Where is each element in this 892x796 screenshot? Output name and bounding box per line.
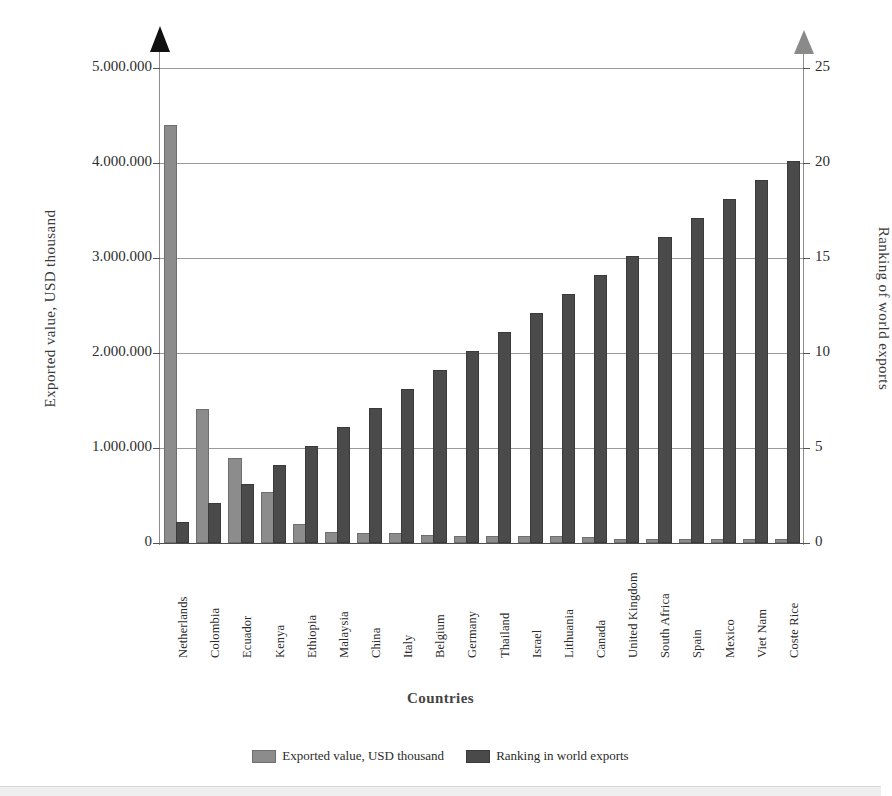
y-axis-right-tick-label: 10 [815, 343, 855, 360]
y-axis-left-arrow-icon [150, 26, 170, 52]
y-axis-left-tick-mark [153, 543, 160, 544]
bar-ranking [498, 332, 511, 543]
x-axis-tick-label: Thailand [498, 613, 513, 658]
bar-ranking [208, 503, 221, 543]
y-axis-right-tick-label: 20 [815, 153, 855, 170]
bar-group [514, 68, 546, 543]
bar-group [289, 68, 321, 543]
bar-group [385, 68, 417, 543]
y-axis-left-tick-label: 1.000.000 [62, 438, 152, 455]
bar-group [256, 68, 288, 543]
bar-group [353, 68, 385, 543]
page-edge-artifact [0, 786, 881, 796]
bar-ranking [723, 199, 736, 543]
chart-legend: Exported value, USD thousandRanking in w… [0, 748, 881, 764]
bar-group [321, 68, 353, 543]
bar-ranking [755, 180, 768, 543]
x-axis-tick-label: United Kingdom [626, 572, 641, 658]
bar-ranking [337, 427, 350, 543]
x-axis-tick-label: China [369, 628, 384, 658]
legend-swatch [466, 750, 490, 763]
bar-ranking [530, 313, 543, 543]
x-axis-tick-label: Kenya [273, 625, 288, 658]
bar-group [546, 68, 578, 543]
y-axis-left-tick-mark [153, 258, 160, 259]
y-axis-right-tick-mark [803, 258, 810, 259]
y-axis-left-tick-mark [153, 163, 160, 164]
x-axis-tick-label: Spain [690, 629, 705, 658]
y-axis-left-tick-label: 4.000.000 [62, 153, 152, 170]
x-axis-tick-label: Belgium [433, 614, 448, 658]
x-axis-tick-label: Colombia [208, 608, 223, 658]
bar-ranking [466, 351, 479, 543]
bar-group [739, 68, 771, 543]
y-axis-right-title: Ranking of world exports [875, 129, 892, 489]
bar-ranking [433, 370, 446, 543]
bar-group [160, 68, 192, 543]
bar-series-container [160, 68, 803, 543]
x-axis-title: Countries [0, 690, 881, 707]
bar-ranking [241, 484, 254, 543]
legend-item[interactable]: Exported value, USD thousand [252, 748, 444, 764]
y-axis-left-tick-label: 3.000.000 [62, 248, 152, 265]
y-axis-right-tick-mark [803, 68, 810, 69]
bar-ranking [305, 446, 318, 543]
legend-label: Exported value, USD thousand [282, 748, 444, 764]
legend-item[interactable]: Ranking in world exports [466, 748, 629, 764]
x-axis-tick-label: Israel [530, 630, 545, 658]
bar-group [578, 68, 610, 543]
bar-group [192, 68, 224, 543]
y-axis-right-arrow-icon [794, 30, 814, 54]
bar-ranking [626, 256, 639, 543]
x-axis-tick-label: Canada [594, 620, 609, 658]
bar-ranking [787, 161, 800, 543]
x-axis-tick-label: Coste Rice [787, 602, 802, 658]
y-axis-left-tick-mark [153, 353, 160, 354]
bar-ranking [273, 465, 286, 543]
y-axis-right-tick-mark [803, 543, 810, 544]
bar-ranking [691, 218, 704, 543]
bar-ranking [658, 237, 671, 543]
bar-group [642, 68, 674, 543]
x-axis-tick-label: Ethiopia [305, 615, 320, 658]
bar-group [417, 68, 449, 543]
y-axis-left-tick-label: 0 [62, 533, 152, 550]
bar-ranking [562, 294, 575, 543]
y-axis-left-title: Exported value, USD thousand [42, 129, 59, 489]
bar-ranking [369, 408, 382, 543]
bar-group [610, 68, 642, 543]
bar-ranking [176, 522, 189, 543]
x-axis-tick-label: Viet Nam [755, 609, 770, 658]
bar-group [482, 68, 514, 543]
y-axis-right-tick-label: 0 [815, 533, 855, 550]
y-axis-right-spine [803, 40, 804, 545]
y-axis-right-tick-mark [803, 448, 810, 449]
bar-ranking [594, 275, 607, 543]
y-axis-right-tick-mark [803, 353, 810, 354]
x-axis-tick-label: Ecuador [240, 616, 255, 658]
bar-group [674, 68, 706, 543]
legend-label: Ranking in world exports [496, 748, 629, 764]
x-axis-tick-label: Germany [465, 611, 480, 658]
x-axis-tick-label: South Africa [658, 593, 673, 658]
y-axis-left-tick-label: 2.000.000 [62, 343, 152, 360]
plot-area [160, 68, 803, 543]
y-axis-right-tick-mark [803, 163, 810, 164]
y-axis-right-tick-label: 15 [815, 248, 855, 265]
bar-group [707, 68, 739, 543]
y-axis-left-tick-mark [153, 448, 160, 449]
y-axis-left-tick-label: 5.000.000 [62, 58, 152, 75]
bar-ranking [401, 389, 414, 543]
bar-group [771, 68, 803, 543]
x-axis-tick-label: Netherlands [176, 597, 191, 659]
x-axis-tick-labels: NetherlandsColombiaEcuadorKenyaEthiopiaM… [160, 548, 803, 663]
x-axis-tick-label: Mexico [723, 619, 738, 658]
y-axis-right-tick-label: 5 [815, 438, 855, 455]
y-axis-right-tick-label: 25 [815, 58, 855, 75]
x-axis-tick-label: Italy [401, 635, 416, 658]
x-axis-tick-label: Malaysia [337, 611, 352, 658]
y-axis-left-tick-mark [153, 68, 160, 69]
bar-group [224, 68, 256, 543]
x-axis-tick-label: Lithuania [562, 609, 577, 658]
